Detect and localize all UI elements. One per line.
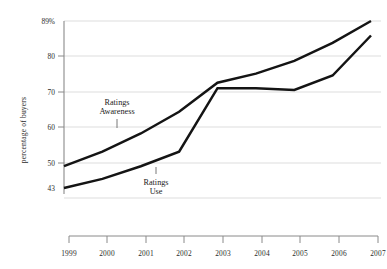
y-tick-label-80: 80 bbox=[48, 52, 56, 61]
y-tick-label-43: 43 bbox=[48, 184, 56, 193]
x-tick-label-1999: 1999 bbox=[61, 249, 77, 258]
ratings-awareness-label-line1: Ratings bbox=[104, 98, 129, 107]
ratings-use-label-line1: Ratings bbox=[143, 178, 168, 187]
chart-background bbox=[0, 0, 387, 269]
y-tick-label-50: 50 bbox=[48, 159, 56, 168]
x-tick-label-2002: 2002 bbox=[176, 249, 192, 258]
y-axis-title: percentage of buyers bbox=[19, 97, 28, 163]
x-tick-label-2007: 2007 bbox=[370, 249, 386, 258]
y-tick-label-70: 70 bbox=[48, 88, 56, 97]
line-chart-figure: 89% 80 70 60 50 43 percentage of buyers … bbox=[0, 0, 387, 269]
y-tick-label-60: 60 bbox=[48, 123, 56, 132]
x-tick-label-2006: 2006 bbox=[331, 249, 347, 258]
x-tick-label-2000: 2000 bbox=[99, 249, 115, 258]
ratings-awareness-label-line2: Awareness bbox=[99, 107, 134, 116]
x-tick-labels: 1999 2000 2001 2002 2003 2004 2005 2006 … bbox=[61, 249, 386, 258]
x-tick-label-2001: 2001 bbox=[138, 249, 154, 258]
x-tick-label-2004: 2004 bbox=[254, 249, 270, 258]
y-tick-label-89: 89% bbox=[41, 17, 55, 26]
ratings-use-label-line2: Use bbox=[150, 187, 163, 196]
x-tick-label-2005: 2005 bbox=[292, 249, 308, 258]
x-tick-label-2003: 2003 bbox=[215, 249, 231, 258]
chart-canvas: 89% 80 70 60 50 43 percentage of buyers … bbox=[0, 0, 387, 269]
